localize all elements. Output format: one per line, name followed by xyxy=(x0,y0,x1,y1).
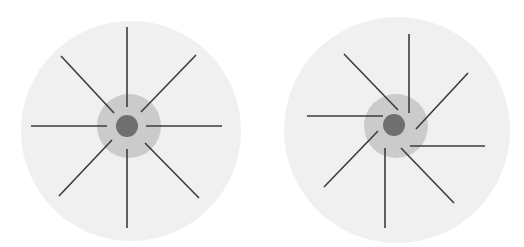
symmetric-radial-figure xyxy=(21,21,241,241)
radial-figures-svg xyxy=(0,0,524,247)
diagram-canvas xyxy=(0,0,524,247)
offset-pinwheel-figure xyxy=(284,17,510,243)
center-dot xyxy=(116,115,138,137)
center-dot xyxy=(383,114,405,136)
